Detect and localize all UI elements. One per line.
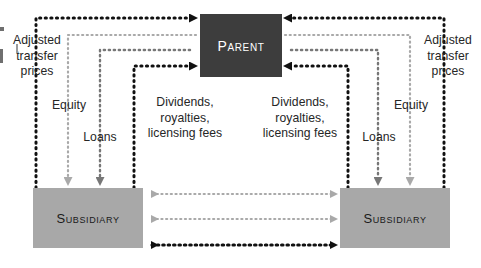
label-loans-left: Loans: [77, 130, 123, 146]
scan-artifact-top: [0, 27, 4, 31]
label-adjusted-transfer-prices-right: Adjusted transfer prices: [417, 33, 479, 80]
node-subsidiary-left[interactable]: Subsidiary: [33, 188, 143, 248]
diagram-canvas: Parent Subsidiary Subsidiary Adjusted tr…: [0, 0, 481, 268]
node-parent-label: Parent: [218, 38, 265, 54]
label-equity-right: Equity: [385, 98, 437, 114]
label-equity-left: Equity: [43, 98, 95, 114]
label-adjusted-transfer-prices-left: Adjusted transfer prices: [6, 33, 68, 80]
scan-artifact-right: [16, 44, 18, 53]
node-subsidiary-left-label: Subsidiary: [56, 211, 119, 226]
node-subsidiary-right-label: Subsidiary: [363, 211, 426, 226]
label-dividends-left: Dividends, royalties, licensing fees: [137, 95, 233, 142]
node-parent[interactable]: Parent: [200, 14, 282, 77]
label-loans-right: Loans: [356, 130, 402, 146]
label-dividends-right: Dividends, royalties, licensing fees: [252, 95, 348, 142]
node-subsidiary-right[interactable]: Subsidiary: [340, 188, 450, 248]
scan-artifact-middle: [0, 49, 3, 63]
